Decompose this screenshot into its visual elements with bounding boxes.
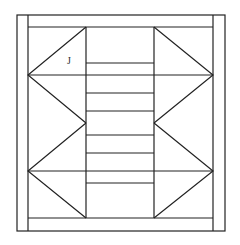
- outer-frame: [17, 15, 225, 231]
- piece-label: J: [67, 55, 71, 66]
- quilt-block-diagram: [0, 0, 240, 245]
